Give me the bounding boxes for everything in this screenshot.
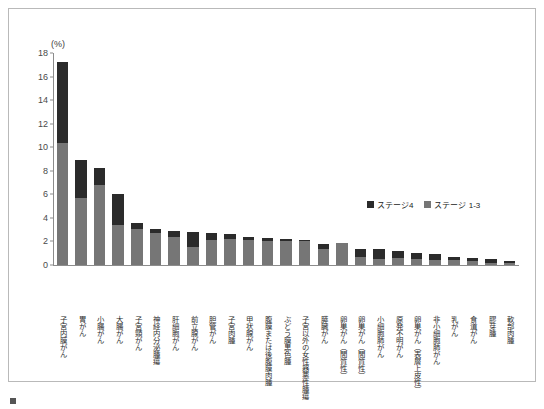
- chart-figure: (%) 181614121086420 子宮内膜がん胃がん小腸がん大腸がん子宮頸…: [8, 8, 536, 382]
- bar-group[interactable]: [467, 53, 479, 265]
- bar-group[interactable]: [355, 53, 367, 265]
- y-axis-tick-label: 10: [38, 142, 48, 152]
- bar-segment-stage-4: [411, 253, 423, 259]
- bar-segment-stage-1-3: [131, 229, 143, 266]
- bar-segment-stage-4: [448, 257, 460, 261]
- chart-legend: ステージ4 ステージ 1-3: [367, 199, 480, 210]
- bar-group[interactable]: [206, 53, 218, 265]
- x-axis-category-label: 腹膜または後腹膜肉腫: [263, 315, 271, 385]
- bar-segment-stage-1-3: [243, 240, 255, 265]
- bar-segment-stage-4: [112, 194, 124, 225]
- x-axis-category-label: 卵巣がん（表層上皮性）: [412, 315, 420, 392]
- y-axis-tick-label: 16: [38, 72, 48, 82]
- y-axis-tick-mark: [50, 76, 53, 77]
- bar-group[interactable]: [57, 53, 69, 265]
- bar-segment-stage-1-3: [336, 243, 348, 265]
- bar-group[interactable]: [373, 53, 385, 265]
- y-axis-tick-label: 12: [38, 119, 48, 129]
- bar-group[interactable]: [112, 53, 124, 265]
- legend-swatch-icon: [367, 201, 374, 208]
- bar-segment-stage-1-3: [299, 241, 311, 265]
- bar-group[interactable]: [429, 53, 441, 265]
- x-axis-category-label: 子宮肉腫: [226, 315, 234, 343]
- x-axis-category-label: ぶどう膜黒色腫: [282, 315, 290, 364]
- bar-group[interactable]: [448, 53, 460, 265]
- bar-group[interactable]: [485, 53, 497, 265]
- bar-segment-stage-4: [467, 258, 479, 262]
- bar-group[interactable]: [504, 53, 516, 265]
- bar-segment-stage-4: [373, 249, 385, 260]
- bar-group[interactable]: [75, 53, 87, 265]
- y-axis-tick-label: 6: [43, 189, 48, 199]
- x-axis-category-label: 膠芽腫: [487, 315, 495, 336]
- bar-segment-stage-1-3: [485, 263, 497, 265]
- y-axis-tick-label: 2: [43, 236, 48, 246]
- x-axis-category-label: 膵臓がん: [319, 315, 327, 343]
- x-axis-category-label: 軟部肉腫: [505, 315, 513, 343]
- bar-segment-stage-4: [299, 240, 311, 241]
- x-axis-category-label: 卵巣がん（間質性）: [356, 315, 364, 378]
- x-axis-category-label: 大腸がん: [114, 315, 122, 343]
- y-axis-tick-label: 8: [43, 166, 48, 176]
- legend-item-stage4[interactable]: ステージ4: [367, 199, 413, 210]
- bar-segment-stage-4: [75, 160, 87, 198]
- bar-segment-stage-1-3: [57, 143, 69, 265]
- y-axis-tick-mark: [50, 123, 53, 124]
- bar-group[interactable]: [168, 53, 180, 265]
- bar-segment-stage-1-3: [504, 263, 516, 265]
- bar-segment-stage-4: [206, 233, 218, 240]
- bar-segment-stage-1-3: [429, 260, 441, 265]
- bar-segment-stage-4: [429, 254, 441, 260]
- x-axis-category-label: 甲状腺がん: [245, 315, 253, 350]
- bar-segment-stage-1-3: [392, 258, 404, 265]
- figure-caption: [10, 396, 510, 407]
- bar-segment-stage-1-3: [94, 185, 106, 265]
- bar-group[interactable]: [243, 53, 255, 265]
- bar-group[interactable]: [131, 53, 143, 265]
- x-axis-category-label: 前立腺がん: [189, 315, 197, 350]
- legend-label: ステージ 1-3: [434, 199, 480, 210]
- x-axis-category-label: 非小細胞肺がん: [431, 315, 439, 364]
- bar-group[interactable]: [318, 53, 330, 265]
- bar-group[interactable]: [411, 53, 423, 265]
- bar-group[interactable]: [150, 53, 162, 265]
- y-axis-tick-mark: [50, 265, 53, 266]
- bar-group[interactable]: [262, 53, 274, 265]
- bar-group[interactable]: [224, 53, 236, 265]
- y-axis-line: [53, 53, 54, 265]
- bar-segment-stage-4: [131, 223, 143, 229]
- bar-group[interactable]: [299, 53, 311, 265]
- bar-group[interactable]: [94, 53, 106, 265]
- legend-swatch-icon: [424, 201, 431, 208]
- bar-segment-stage-1-3: [411, 259, 423, 265]
- bar-segment-stage-1-3: [373, 259, 385, 265]
- bar-group[interactable]: [336, 53, 348, 265]
- bar-group[interactable]: [280, 53, 292, 265]
- bar-segment-stage-4: [318, 244, 330, 249]
- bar-group[interactable]: [392, 53, 404, 265]
- y-axis-tick-mark: [50, 53, 53, 54]
- bar-segment-stage-4: [187, 232, 199, 247]
- bar-segment-stage-4: [355, 249, 367, 257]
- bar-segment-stage-4: [392, 251, 404, 258]
- x-axis-category-label: 小細胞肺がん: [375, 315, 383, 357]
- bar-segment-stage-1-3: [112, 225, 124, 265]
- bar-group[interactable]: [187, 53, 199, 265]
- bar-segment-stage-1-3: [168, 237, 180, 265]
- bar-segment-stage-4: [224, 234, 236, 239]
- bar-segment-stage-1-3: [262, 241, 274, 265]
- plot-area: 181614121086420 子宮内膜がん胃がん小腸がん大腸がん子宮頸がん神経…: [53, 53, 519, 265]
- bar-segment-stage-4: [150, 229, 162, 234]
- x-axis-category-label: 肝細胞がん: [170, 315, 178, 350]
- legend-label: ステージ4: [377, 199, 413, 210]
- bar-segment-stage-1-3: [150, 233, 162, 265]
- bar-segment-stage-4: [280, 239, 292, 241]
- bar-segment-stage-4: [485, 259, 497, 263]
- legend-item-stage13[interactable]: ステージ 1-3: [424, 199, 480, 210]
- y-axis-tick-label: 4: [43, 213, 48, 223]
- bar-segment-stage-1-3: [75, 198, 87, 265]
- y-axis-tick-mark: [50, 100, 53, 101]
- bar-segment-stage-4: [262, 238, 274, 242]
- x-axis-category-label: 子宮内膜がん: [58, 315, 66, 357]
- y-axis-tick-mark: [50, 147, 53, 148]
